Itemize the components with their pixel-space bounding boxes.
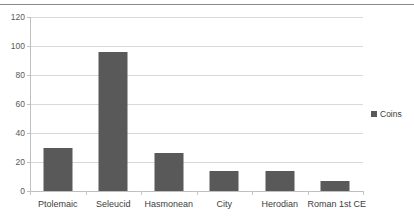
legend-item-label: Coins xyxy=(380,110,402,119)
x-axis-category-label: Ptolemaic xyxy=(30,200,86,209)
x-axis-tick xyxy=(141,191,142,195)
legend-square-marker-icon xyxy=(371,111,377,117)
x-axis-category-label: Hasmonean xyxy=(141,200,197,209)
bar-slot xyxy=(308,17,364,191)
bar-slot xyxy=(252,17,308,191)
page-top-rule xyxy=(0,4,414,5)
bar-slot xyxy=(141,17,197,191)
y-axis-tick-label: 100 xyxy=(11,42,25,51)
x-axis-tick xyxy=(308,191,309,195)
bar-slot xyxy=(197,17,253,191)
x-axis-tick xyxy=(86,191,87,195)
y-axis-tick-label: 20 xyxy=(16,158,25,167)
chart-legend: Coins xyxy=(371,110,402,119)
y-axis-tick-label: 0 xyxy=(20,187,25,196)
y-axis-tick-label: 80 xyxy=(16,71,25,80)
y-axis-tick-label: 60 xyxy=(16,100,25,109)
x-axis-category-label: Roman 1st CE xyxy=(308,200,364,209)
bar-slot xyxy=(30,17,86,191)
bar-series-coins xyxy=(30,17,363,191)
x-axis-tick xyxy=(30,191,31,195)
x-axis-category-label: City xyxy=(197,200,253,209)
bar[interactable] xyxy=(43,148,72,192)
bar[interactable] xyxy=(265,171,294,191)
bar-slot xyxy=(86,17,142,191)
x-axis-tick xyxy=(197,191,198,195)
bar[interactable] xyxy=(321,181,350,191)
x-axis-tick xyxy=(252,191,253,195)
x-axis-category-label: Seleucid xyxy=(86,200,142,209)
bar-chart: 020406080100120 PtolemaicSeleucidHasmone… xyxy=(0,0,414,221)
y-axis-tick-label: 120 xyxy=(11,13,25,22)
y-axis-tick-label: 40 xyxy=(16,129,25,138)
x-axis-category-label: Herodian xyxy=(252,200,308,209)
bar[interactable] xyxy=(210,171,239,191)
x-axis-tick xyxy=(363,191,364,195)
bar[interactable] xyxy=(154,153,183,191)
bar[interactable] xyxy=(99,52,128,191)
